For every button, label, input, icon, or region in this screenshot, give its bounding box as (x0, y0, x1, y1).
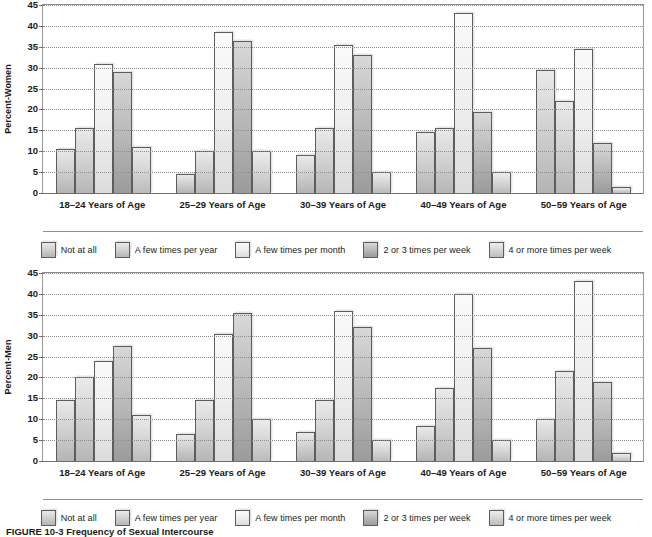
legend-item[interactable]: A few times per month (235, 242, 345, 258)
chart-panel-women: Percent-Women 051015202530354045 18–24 Y… (0, 4, 652, 216)
gridline (43, 315, 643, 316)
y-axis-tick-label: 35 (27, 40, 38, 51)
x-axis-category-label: 25–29 Years of Age (162, 199, 282, 210)
bar (296, 155, 315, 193)
bar (176, 174, 195, 193)
bar (132, 147, 151, 193)
y-axis-label-men-text: Percent-Men (3, 339, 13, 394)
legend-item-label: A few times per month (255, 245, 345, 255)
bar (416, 426, 435, 462)
bar (233, 41, 252, 193)
chart-panel-men: Percent-Men 051015202530354045 18–24 Yea… (0, 272, 652, 484)
legend-item[interactable]: Not at all (41, 242, 97, 258)
legend-men: Not at allA few times per yearA few time… (0, 509, 652, 527)
legend-item-label: A few times per year (135, 513, 218, 523)
plot-area-men (42, 272, 644, 462)
bar-group (43, 273, 163, 461)
x-axis-labels-men: 18–24 Years of Age25–29 Years of Age30–3… (42, 467, 644, 478)
bar-group (523, 273, 643, 461)
gridline (43, 89, 643, 90)
legend-item[interactable]: A few times per month (235, 510, 345, 526)
y-axis-tickmark (39, 47, 43, 48)
gridline (43, 47, 643, 48)
y-axis-tickmark (39, 151, 43, 152)
y-axis-tick-label: 40 (27, 287, 38, 298)
legend-swatch-icon (363, 510, 378, 526)
bar (416, 132, 435, 193)
x-axis-category-label: 40–49 Years of Age (403, 467, 523, 478)
bar-groups-women (43, 5, 643, 193)
x-axis-category-label: 18–24 Years of Age (42, 467, 162, 478)
y-axis-tickmark (39, 193, 43, 194)
bar (75, 128, 94, 193)
x-axis-category-label: 50–59 Years of Age (524, 199, 644, 210)
legend-item-label: Not at all (61, 513, 97, 523)
bar (593, 382, 612, 461)
bar (214, 334, 233, 461)
bar (56, 400, 75, 461)
y-axis-tick-label: 25 (27, 350, 38, 361)
gridline (43, 377, 643, 378)
bar-group (163, 5, 283, 193)
figure-caption-title: Frequency of Sexual Intercourse (66, 526, 213, 537)
legend-item-label: 4 or more times per week (509, 245, 612, 255)
y-axis-ticks-women: 051015202530354045 (16, 4, 42, 192)
y-axis-tick-label: 40 (27, 19, 38, 30)
legend-item[interactable]: A few times per year (115, 510, 218, 526)
y-axis-label-men: Percent-Men (0, 272, 16, 462)
y-axis-tick-label: 30 (27, 61, 38, 72)
gridline (43, 151, 643, 152)
legend-swatch-icon (489, 510, 504, 526)
legend-swatch-icon (115, 242, 130, 258)
y-axis-tick-label: 15 (27, 124, 38, 135)
gridline (43, 68, 643, 69)
gridline (43, 440, 643, 441)
bar (372, 172, 391, 193)
y-axis-tick-label: 25 (27, 82, 38, 93)
bar-group (283, 273, 403, 461)
legend-swatch-icon (41, 510, 56, 526)
bar (94, 361, 113, 461)
bar (113, 346, 132, 461)
bar (334, 311, 353, 461)
gridline (43, 294, 643, 295)
y-axis-tick-label: 5 (33, 434, 38, 445)
bar (315, 128, 334, 193)
legend-women: Not at allA few times per yearA few time… (0, 241, 652, 259)
y-axis-tickmark (39, 419, 43, 420)
bar (555, 101, 574, 193)
legend-item-label: A few times per month (255, 513, 345, 523)
legend-item[interactable]: Not at all (41, 510, 97, 526)
bar (574, 281, 593, 461)
bar (435, 128, 454, 193)
bar (473, 348, 492, 461)
y-axis-tick-label: 5 (33, 166, 38, 177)
legend-item[interactable]: 2 or 3 times per week (363, 510, 470, 526)
legend-item[interactable]: 4 or more times per week (489, 510, 612, 526)
legend-item[interactable]: 2 or 3 times per week (363, 242, 470, 258)
x-axis-line (43, 461, 643, 462)
y-axis-tickmark (39, 26, 43, 27)
y-axis-tick-label: 45 (27, 0, 38, 10)
y-axis-tickmark (39, 89, 43, 90)
bar (555, 371, 574, 461)
y-axis-tickmark (39, 273, 43, 274)
legend-item[interactable]: A few times per year (115, 242, 218, 258)
x-axis-category-label: 30–39 Years of Age (283, 199, 403, 210)
legend-swatch-icon (115, 510, 130, 526)
x-axis-category-label: 25–29 Years of Age (162, 467, 282, 478)
legend-swatch-icon (489, 242, 504, 258)
legend-item-label: 4 or more times per week (509, 513, 612, 523)
divider-men (43, 499, 643, 500)
y-axis-ticks-men: 051015202530354045 (16, 272, 42, 460)
y-axis-tickmark (39, 398, 43, 399)
bar-groups-men (43, 273, 643, 461)
legend-item-label: 2 or 3 times per week (383, 513, 470, 523)
bar (612, 453, 631, 461)
y-axis-tickmark (39, 5, 43, 6)
gridline (43, 26, 643, 27)
legend-item[interactable]: 4 or more times per week (489, 242, 612, 258)
y-axis-tickmark (39, 440, 43, 441)
x-axis-category-label: 18–24 Years of Age (42, 199, 162, 210)
